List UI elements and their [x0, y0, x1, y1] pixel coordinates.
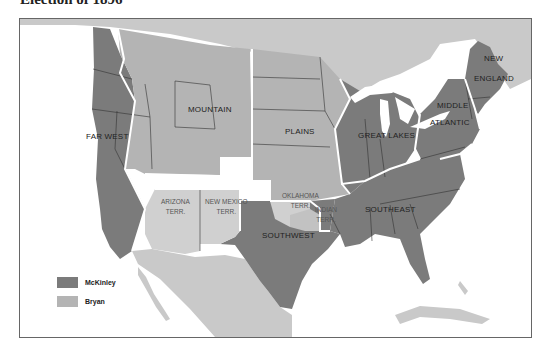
label-far-west: FAR WEST [86, 132, 129, 141]
label-new-england-1: NEW [484, 54, 503, 63]
legend-item-mckinley: McKinley [57, 277, 116, 288]
new-mexico-line-1: NEW MEXICO [205, 197, 248, 207]
label-new-mexico-territory: NEW MEXICO TERR. [205, 197, 248, 217]
label-great-lakes: GREAT LAKES [358, 131, 415, 140]
map-legend: McKinley Bryan [57, 277, 116, 315]
legend-item-bryan: Bryan [57, 296, 116, 307]
region-mountain [118, 29, 252, 175]
map-title: Election of 1896 [20, 0, 123, 8]
indian-line-1: INDIAN [315, 205, 337, 215]
map-frame: FAR WEST MOUNTAIN PLAINS GREAT LAKES NEW… [19, 18, 532, 338]
label-new-england-2: ENGLAND [474, 74, 514, 83]
legend-label-mckinley: McKinley [85, 279, 116, 286]
oklahoma-line-2: TERR. [282, 201, 319, 211]
bryan-swatch [57, 296, 78, 307]
mckinley-swatch [57, 277, 78, 288]
label-southwest: SOUTHWEST [262, 231, 315, 240]
arizona-line-2: TERR. [161, 207, 190, 217]
oklahoma-line-1: OKLAHOMA [282, 191, 319, 201]
label-southeast: SOUTHEAST [365, 205, 416, 214]
label-middle-atlantic-1: MIDDLE [437, 101, 468, 110]
indian-line-2: TERR. [315, 215, 337, 225]
label-mountain: MOUNTAIN [188, 105, 232, 114]
cuba [395, 306, 490, 324]
label-middle-atlantic-2: ATLANTIC [430, 118, 470, 127]
bahamas [458, 281, 488, 295]
legend-label-bryan: Bryan [85, 298, 105, 305]
label-oklahoma-territory: OKLAHOMA TERR. [282, 191, 319, 211]
label-indian-territory: INDIAN TERR. [315, 205, 337, 225]
new-mexico-line-2: TERR. [205, 207, 248, 217]
label-plains: PLAINS [285, 127, 315, 136]
label-arizona-territory: ARIZONA TERR. [161, 197, 190, 217]
arizona-line-1: ARIZONA [161, 197, 190, 207]
